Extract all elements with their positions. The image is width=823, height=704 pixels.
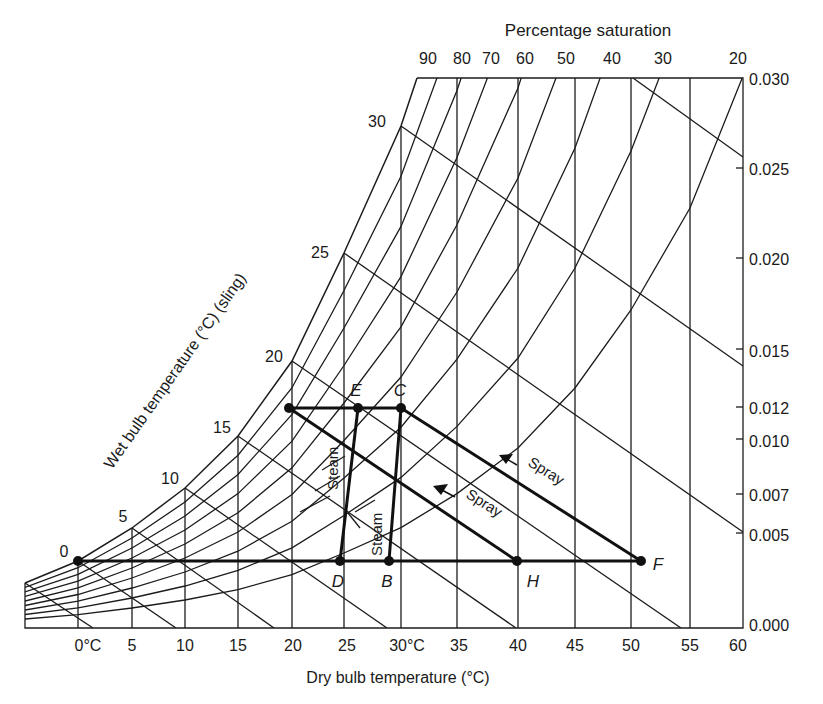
svg-text:40: 40 [509, 637, 527, 654]
svg-text:45: 45 [566, 637, 584, 654]
steam-label-1: Steam [324, 447, 341, 490]
arrow-icon [433, 484, 448, 495]
svg-text:80: 80 [453, 50, 471, 67]
svg-text:0.020: 0.020 [749, 251, 789, 268]
svg-text:30: 30 [654, 50, 672, 67]
svg-text:5: 5 [119, 508, 128, 525]
drybulb-tick-labels: 0°C 5 10 15 20 25 30°C 35 40 45 50 55 60 [75, 637, 747, 654]
point-label-E: E [350, 381, 362, 400]
svg-text:0.025: 0.025 [749, 161, 789, 178]
svg-text:0.000: 0.000 [749, 617, 789, 634]
svg-text:35: 35 [450, 637, 468, 654]
title-percentage-saturation: Percentage saturation [505, 21, 671, 40]
svg-text:5: 5 [128, 637, 137, 654]
svg-text:0: 0 [60, 543, 69, 560]
svg-text:20: 20 [265, 348, 283, 365]
svg-text:10: 10 [161, 470, 179, 487]
svg-text:70: 70 [482, 50, 500, 67]
svg-text:15: 15 [213, 419, 231, 436]
svg-text:20: 20 [729, 50, 747, 67]
svg-text:10: 10 [176, 637, 194, 654]
spray-label-1: Spray [525, 453, 568, 488]
xlabel: Dry bulb temperature (°C) [306, 669, 489, 686]
svg-text:30: 30 [368, 113, 386, 130]
svg-text:60: 60 [729, 637, 747, 654]
svg-text:25: 25 [311, 244, 329, 261]
svg-text:20: 20 [284, 637, 302, 654]
svg-text:0.030: 0.030 [749, 71, 789, 88]
svg-text:50: 50 [557, 50, 575, 67]
wetbulb-tick-labels: 0 5 10 15 20 25 30 [60, 113, 386, 560]
svg-text:0.012: 0.012 [749, 400, 789, 417]
point-label-B: B [381, 572, 392, 591]
moisture-ticks [736, 168, 743, 533]
svg-text:25: 25 [338, 637, 356, 654]
svg-text:0.005: 0.005 [749, 527, 789, 544]
rh-curve-70 [25, 0, 743, 597]
point-label-H: H [527, 572, 540, 591]
moisture-tick-labels: 0.030 0.025 0.020 0.015 0.012 0.010 0.00… [749, 71, 789, 634]
point-label-C: C [394, 381, 407, 400]
svg-text:0.007: 0.007 [749, 487, 789, 504]
saturation-tick-labels: 90 80 70 60 50 40 30 20 [419, 50, 747, 67]
psychrometric-chart: Percentage saturation 90 80 70 60 50 40 … [0, 0, 823, 704]
rh-curve-80 [25, 0, 743, 592]
spray-line-F [401, 408, 641, 561]
point-label-F: F [653, 555, 665, 574]
svg-text:0.010: 0.010 [749, 433, 789, 450]
chart-canvas: Percentage saturation 90 80 70 60 50 40 … [0, 0, 823, 704]
rh-curve-90 [25, 0, 743, 588]
svg-text:0.015: 0.015 [749, 343, 789, 360]
point-label-D: D [332, 572, 344, 591]
svg-text:60: 60 [516, 50, 534, 67]
wetbulb-axis-label: Wet bulb temperature (°C) (sling) [101, 270, 250, 472]
steam-line-DE [340, 408, 358, 561]
svg-text:55: 55 [681, 637, 699, 654]
rh-curve-60 [25, 0, 743, 601]
steam-label-2: Steam [368, 513, 385, 556]
spray-label-2: Spray [463, 485, 506, 520]
svg-text:30°C: 30°C [389, 637, 425, 654]
svg-text:40: 40 [603, 50, 621, 67]
svg-text:90: 90 [419, 50, 437, 67]
svg-text:50: 50 [622, 637, 640, 654]
svg-text:15: 15 [229, 637, 247, 654]
svg-text:0°C: 0°C [75, 637, 102, 654]
arrow-icon [499, 454, 513, 464]
